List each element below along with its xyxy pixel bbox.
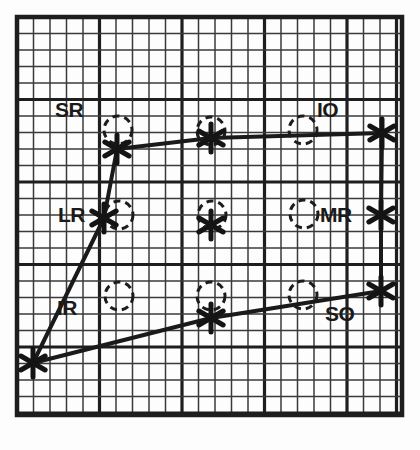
hess-screen-chart: SR IO LR MR IR SO <box>0 0 420 450</box>
muscle-label-ir: IR <box>57 297 77 318</box>
muscle-label-io: IO <box>317 99 338 120</box>
muscle-label-so: SO <box>325 303 354 324</box>
muscle-label-sr: SR <box>55 99 83 120</box>
muscle-label-mr: MR <box>320 204 352 225</box>
muscle-label-lr: LR <box>58 204 85 225</box>
